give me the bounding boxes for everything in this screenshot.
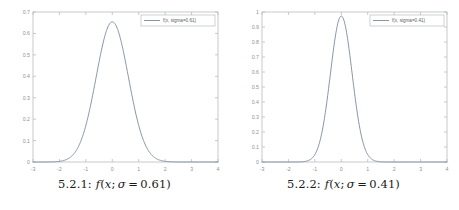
- gaussian-plot-sigma-0-61: -3-2-10123400.10.20.30.40.50.60.7f(x, si…: [7, 0, 223, 176]
- svg-text:2: 2: [392, 166, 395, 172]
- svg-text:0.3: 0.3: [22, 95, 29, 101]
- svg-text:f(x, sigma=0.41): f(x, sigma=0.41): [392, 18, 426, 23]
- figure-5-2-2: -3-2-10123400.10.20.30.40.50.60.70.80.91…: [229, 0, 458, 210]
- caption-equals: =: [357, 177, 367, 191]
- svg-text:f(x, sigma=0.61): f(x, sigma=0.61): [163, 18, 197, 23]
- caption-number: 5.2.2:: [287, 177, 321, 191]
- svg-text:0.5: 0.5: [251, 84, 258, 90]
- caption-sigma-value: 0.41: [369, 177, 395, 191]
- figure-row: -3-2-10123400.10.20.30.40.50.60.7f(x, si…: [0, 0, 459, 210]
- caption-paren-close: ): [166, 177, 171, 191]
- figure-caption-5-2-1: 5.2.1:f(x; σ = 0.61): [58, 177, 171, 191]
- gaussian-plot-sigma-0-41: -3-2-10123400.10.20.30.40.50.60.70.80.91…: [236, 0, 452, 176]
- caption-semicolon: ;: [111, 177, 115, 191]
- figure-caption-5-2-2: 5.2.2:f(x; σ = 0.41): [287, 177, 400, 191]
- svg-text:3: 3: [190, 166, 193, 172]
- svg-text:-2: -2: [286, 166, 291, 172]
- svg-text:4: 4: [216, 166, 219, 172]
- svg-text:0.6: 0.6: [251, 69, 258, 75]
- caption-sigma-value: 0.61: [140, 177, 166, 191]
- svg-text:0: 0: [27, 159, 30, 165]
- svg-text:1: 1: [137, 166, 140, 172]
- svg-text:0.7: 0.7: [251, 54, 258, 60]
- svg-text:0.1: 0.1: [251, 144, 258, 150]
- plot-area-5-2-2: -3-2-10123400.10.20.30.40.50.60.70.80.91…: [236, 0, 452, 176]
- caption-equals: =: [128, 177, 138, 191]
- figure-5-2-1: -3-2-10123400.10.20.30.40.50.60.7f(x, si…: [0, 0, 229, 210]
- svg-text:0.9: 0.9: [251, 24, 258, 30]
- svg-text:4: 4: [445, 166, 448, 172]
- svg-text:0.2: 0.2: [22, 116, 29, 122]
- svg-text:-2: -2: [57, 166, 62, 172]
- svg-text:0.5: 0.5: [22, 52, 29, 58]
- svg-text:0.3: 0.3: [251, 114, 258, 120]
- caption-paren-close: ): [395, 177, 400, 191]
- svg-text:0.2: 0.2: [251, 129, 258, 135]
- svg-text:0: 0: [110, 166, 113, 172]
- caption-sigma-symbol: σ: [118, 177, 126, 191]
- svg-text:1: 1: [366, 166, 369, 172]
- svg-text:0.7: 0.7: [22, 9, 29, 15]
- svg-text:-1: -1: [312, 166, 317, 172]
- svg-text:2: 2: [163, 166, 166, 172]
- svg-text:0.6: 0.6: [22, 30, 29, 36]
- svg-text:3: 3: [419, 166, 422, 172]
- caption-number: 5.2.1:: [58, 177, 92, 191]
- svg-text:-3: -3: [30, 166, 35, 172]
- svg-text:1: 1: [256, 9, 259, 15]
- svg-text:-3: -3: [259, 166, 264, 172]
- svg-text:0.8: 0.8: [251, 39, 258, 45]
- svg-text:0.1: 0.1: [22, 138, 29, 144]
- caption-sigma-symbol: σ: [347, 177, 355, 191]
- caption-semicolon: ;: [340, 177, 344, 191]
- svg-text:0.4: 0.4: [22, 73, 29, 79]
- svg-text:0: 0: [339, 166, 342, 172]
- svg-text:0: 0: [256, 159, 259, 165]
- svg-text:0.4: 0.4: [251, 99, 258, 105]
- plot-area-5-2-1: -3-2-10123400.10.20.30.40.50.60.7f(x, si…: [7, 0, 223, 176]
- svg-text:-1: -1: [83, 166, 88, 172]
